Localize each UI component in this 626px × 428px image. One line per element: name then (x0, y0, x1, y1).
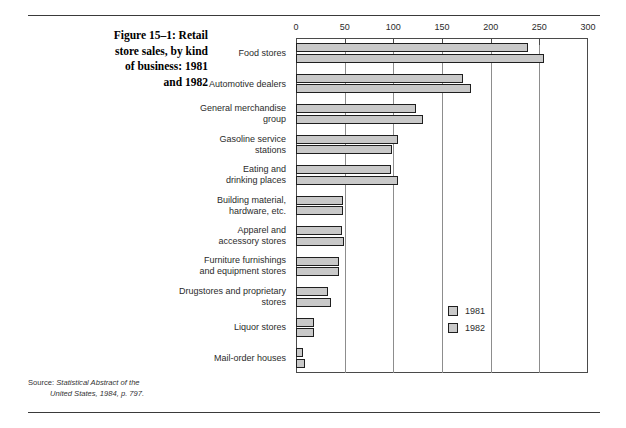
category-label: General merchandisegroup (106, 103, 286, 125)
caption-line: of business: 1981 (26, 59, 208, 75)
source-note: Source: Statistical Abstract of the Unit… (28, 378, 218, 399)
category-label-line: Automotive dealers (106, 78, 286, 89)
category-label-line: Apparel and (106, 225, 286, 236)
bar (296, 165, 391, 174)
category-label-line: Furniture furnishings (106, 255, 286, 266)
bar (296, 135, 398, 144)
legend-swatch (448, 306, 458, 316)
bar (296, 328, 314, 337)
bar (296, 104, 416, 113)
x-axis-tick-label: 250 (532, 22, 547, 32)
gridline (539, 38, 540, 373)
bar (296, 359, 305, 368)
legend-label: 1981 (465, 306, 485, 316)
category-label: Eating anddrinking places (106, 164, 286, 186)
category-label-line: hardware, etc. (106, 206, 286, 217)
category-label: Automotive dealers (106, 78, 286, 89)
x-axis-tick-label: 200 (483, 22, 498, 32)
x-axis-tick-label: 100 (386, 22, 401, 32)
x-axis-tick-label: 0 (293, 22, 298, 32)
x-axis-tick-label: 300 (580, 22, 595, 32)
bar (296, 267, 339, 276)
source-text-line2: United States, 1984, p. 797. (28, 389, 218, 400)
x-axis-tick-label: 150 (434, 22, 449, 32)
category-label-line: accessory stores (106, 236, 286, 247)
source-label: Source: (28, 378, 54, 387)
category-label: Apparel andaccessory stores (106, 225, 286, 247)
category-label-line: Mail-order houses (106, 352, 286, 363)
bar (296, 176, 398, 185)
top-rule (28, 15, 600, 16)
legend-label: 1982 (465, 323, 485, 333)
bar (296, 115, 423, 124)
category-label: Liquor stores (106, 322, 286, 333)
figure-container: Figure 15–1: Retailstore sales, by kindo… (0, 0, 626, 428)
category-label: Food stores (106, 48, 286, 59)
category-label-line: Drugstores and proprietary (106, 286, 286, 297)
legend-item: 1982 (448, 323, 485, 333)
bar (296, 74, 463, 83)
bar (296, 318, 314, 327)
tick-mark (539, 38, 540, 45)
category-label-line: Gasoline service (106, 134, 286, 145)
category-label: Building material,hardware, etc. (106, 195, 286, 217)
category-label-line: General merchandise (106, 103, 286, 114)
bottom-rule (28, 412, 600, 413)
category-label-line: Liquor stores (106, 322, 286, 333)
bar (296, 84, 471, 93)
x-axis-tick-label: 50 (340, 22, 350, 32)
category-label-line: group (106, 114, 286, 125)
category-label: Gasoline servicestations (106, 134, 286, 156)
bar (296, 257, 339, 266)
bar (296, 43, 528, 52)
bar (296, 206, 343, 215)
category-label-line: and equipment stores (106, 266, 286, 277)
source-text-line1: Statistical Abstract of the (56, 378, 139, 387)
category-label-line: stores (106, 297, 286, 308)
bar (296, 298, 331, 307)
bar-chart: 050100150200250300 Food storesAutomotive… (296, 38, 588, 373)
gridline (491, 38, 492, 373)
category-label-line: Building material, (106, 195, 286, 206)
category-label-line: Food stores (106, 48, 286, 59)
bar (296, 54, 544, 63)
legend-swatch (448, 323, 458, 333)
bar (296, 226, 342, 235)
legend: 19811982 (448, 306, 485, 340)
category-label-line: stations (106, 145, 286, 156)
category-label: Drugstores and proprietarystores (106, 286, 286, 308)
bar (296, 145, 392, 154)
bar (296, 348, 303, 357)
bar (296, 237, 344, 246)
category-label: Mail-order houses (106, 352, 286, 363)
caption-line: Figure 15–1: Retail (26, 28, 208, 44)
category-label-line: drinking places (106, 175, 286, 186)
legend-item: 1981 (448, 306, 485, 316)
category-label: Furniture furnishingsand equipment store… (106, 255, 286, 277)
bar (296, 196, 343, 205)
category-label-line: Eating and (106, 164, 286, 175)
bar (296, 287, 328, 296)
